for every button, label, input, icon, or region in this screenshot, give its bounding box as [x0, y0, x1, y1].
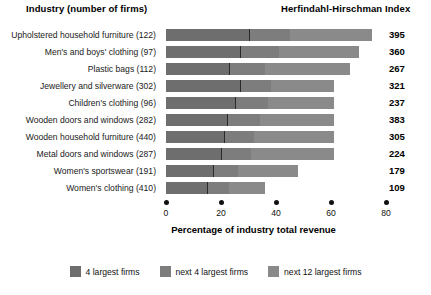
hhi-value: 267: [389, 60, 429, 77]
hhi-value: 179: [389, 162, 429, 179]
chart-row: Women's sportswear (191)179: [0, 162, 431, 179]
industry-column-header: Industry (number of firms): [26, 3, 147, 14]
industry-label: Upholstered household furniture (122): [0, 26, 160, 43]
stacked-bar[interactable]: [166, 46, 359, 58]
bar-segment-2: [224, 131, 254, 143]
industry-label: Children's clothing (96): [0, 94, 160, 111]
chart-row: Women's clothing (410)109: [0, 179, 431, 196]
stacked-bar[interactable]: [166, 148, 334, 160]
hhi-value: 237: [389, 94, 429, 111]
x-tick-label: 20: [216, 208, 226, 218]
bar-segment-3: [271, 80, 334, 92]
hhi-value: 383: [389, 111, 429, 128]
industry-label: Wooden doors and windows (282): [0, 111, 160, 128]
legend-label: next 12 largest firms: [284, 267, 361, 277]
bar-segment-3: [238, 165, 299, 177]
bar-segment-3: [260, 114, 334, 126]
legend-label: 4 largest firms: [86, 267, 140, 277]
x-tick-label: 60: [326, 208, 336, 218]
chart-row: Men's and boys' clothing (97)360: [0, 43, 431, 60]
x-axis-label: Percentage of industry total revenue: [0, 224, 431, 235]
bar-track: [166, 148, 386, 160]
bar-segment-2: [221, 148, 251, 160]
stacked-bar[interactable]: [166, 97, 334, 109]
stacked-bar[interactable]: [166, 131, 334, 143]
bar-segment-3: [290, 29, 373, 41]
hhi-value: 360: [389, 43, 429, 60]
x-tick-dot: [384, 200, 389, 205]
hhi-column-header: Herfindahl-Hirschman Index: [281, 3, 410, 14]
bar-segment-1: [166, 182, 207, 194]
bar-track: [166, 114, 386, 126]
bar-segment-3: [251, 148, 334, 160]
bar-segment-3: [229, 182, 265, 194]
hhi-value: 395: [389, 26, 429, 43]
bar-segment-1: [166, 148, 221, 160]
stacked-bar[interactable]: [166, 63, 350, 75]
legend-item[interactable]: 4 largest firms: [70, 266, 140, 277]
bar-segment-2: [213, 165, 238, 177]
bar-segment-1: [166, 165, 213, 177]
legend-swatch-icon: [268, 266, 279, 277]
chart-row: Wooden household furniture (440)305: [0, 128, 431, 145]
bar-segment-2: [249, 29, 290, 41]
chart-container: Industry (number of firms) Herfindahl-Hi…: [0, 0, 431, 295]
bar-segment-1: [166, 63, 229, 75]
hhi-value: 109: [389, 179, 429, 196]
industry-label: Men's and boys' clothing (97): [0, 43, 160, 60]
bar-segment-1: [166, 29, 249, 41]
bar-segment-1: [166, 80, 240, 92]
bar-segment-2: [240, 46, 279, 58]
industry-label: Women's clothing (410): [0, 179, 160, 196]
industry-label: Plastic bags (112): [0, 60, 160, 77]
industry-label: Wooden household furniture (440): [0, 128, 160, 145]
x-tick-dot: [274, 200, 279, 205]
x-axis: Percentage of industry total revenue 020…: [0, 200, 431, 240]
bar-segment-2: [240, 80, 270, 92]
bar-segment-3: [268, 97, 334, 109]
x-axis-label-text: Percentage of industry total revenue: [95, 224, 336, 235]
legend-item[interactable]: next 12 largest firms: [268, 266, 361, 277]
x-tick-label: 40: [271, 208, 281, 218]
bar-track: [166, 165, 386, 177]
bar-segment-3: [279, 46, 359, 58]
x-tick-label: 0: [164, 208, 169, 218]
chart-row: Wooden doors and windows (282)383: [0, 111, 431, 128]
bar-track: [166, 97, 386, 109]
bar-segment-1: [166, 131, 224, 143]
legend-item[interactable]: next 4 largest firms: [160, 266, 249, 277]
industry-label: Jewellery and silverware (302): [0, 77, 160, 94]
bar-segment-2: [235, 97, 268, 109]
hhi-value: 321: [389, 77, 429, 94]
legend-label: next 4 largest firms: [176, 267, 249, 277]
bar-segment-2: [229, 63, 265, 75]
legend-swatch-icon: [160, 266, 171, 277]
chart-row: Children's clothing (96)237: [0, 94, 431, 111]
bar-track: [166, 131, 386, 143]
stacked-bar[interactable]: [166, 182, 265, 194]
stacked-bar[interactable]: [166, 114, 334, 126]
hhi-value: 305: [389, 128, 429, 145]
hhi-value: 224: [389, 145, 429, 162]
stacked-bar[interactable]: [166, 80, 334, 92]
x-tick-label: 80: [381, 208, 391, 218]
industry-label: Metal doors and windows (287): [0, 145, 160, 162]
legend-swatch-icon: [70, 266, 81, 277]
bar-track: [166, 63, 386, 75]
bar-segment-2: [227, 114, 260, 126]
x-tick-dot: [219, 200, 224, 205]
bar-segment-1: [166, 97, 235, 109]
bar-track: [166, 80, 386, 92]
x-tick-dot: [164, 200, 169, 205]
stacked-bar[interactable]: [166, 29, 372, 41]
bar-rows: Upholstered household furniture (122)395…: [0, 26, 431, 196]
bar-segment-1: [166, 114, 227, 126]
bar-track: [166, 29, 386, 41]
chart-row: Jewellery and silverware (302)321: [0, 77, 431, 94]
stacked-bar[interactable]: [166, 165, 298, 177]
chart-row: Plastic bags (112)267: [0, 60, 431, 77]
x-tick-dot: [329, 200, 334, 205]
chart-row: Upholstered household furniture (122)395: [0, 26, 431, 43]
bar-segment-3: [265, 63, 350, 75]
industry-label: Women's sportswear (191): [0, 162, 160, 179]
